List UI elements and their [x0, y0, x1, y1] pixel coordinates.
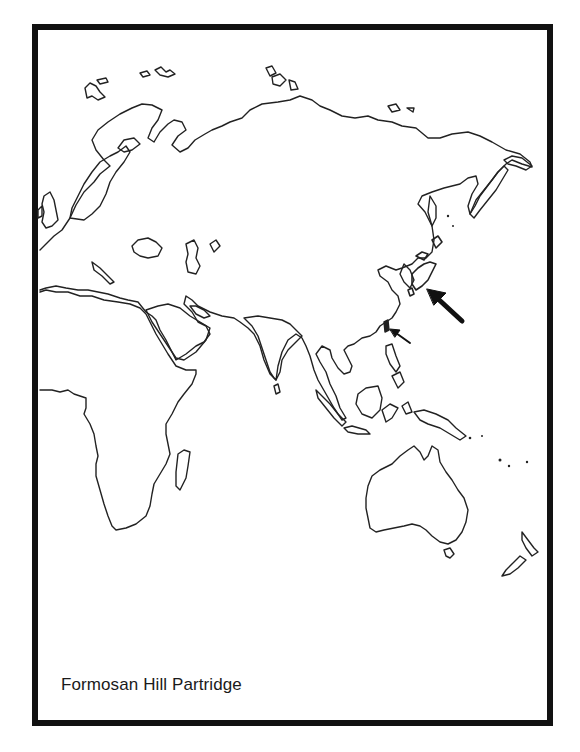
- india: [244, 316, 302, 394]
- new-zealand: [502, 532, 538, 576]
- arctic-islands: [85, 66, 414, 112]
- taiwan: [384, 320, 389, 332]
- australia: [366, 446, 468, 558]
- small-arrow-icon: [390, 329, 410, 343]
- eurasia: [40, 96, 532, 420]
- japan: [408, 236, 442, 296]
- british-isles: [38, 192, 58, 228]
- world-map: [0, 0, 580, 752]
- large-arrow-icon: [427, 289, 462, 321]
- pacific-islands: [447, 215, 528, 467]
- southeast-asia-islands: [316, 344, 466, 440]
- africa: [40, 290, 196, 530]
- map-caption: Formosan Hill Partridge: [61, 675, 242, 695]
